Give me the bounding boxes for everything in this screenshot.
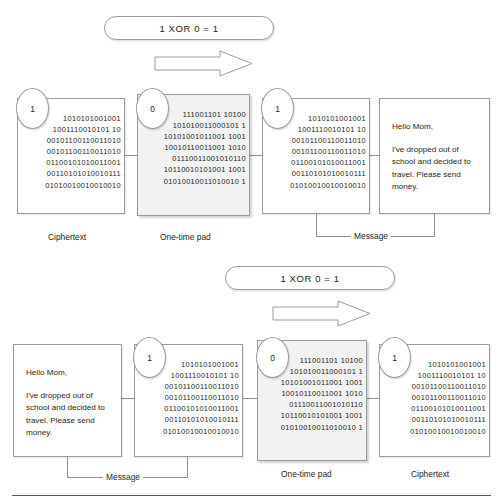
message-prose-top: Hello Mom, I've dropped out of school an… <box>392 121 480 193</box>
xor-equation-text-top: 1 XOR 0 = 1 <box>159 23 218 34</box>
flow-arrow-top <box>154 50 254 78</box>
bit-bubble-message-top: 1 <box>261 88 294 129</box>
connector-top-2 <box>249 155 263 156</box>
connector-bottom-3 <box>365 398 379 399</box>
bit-bubble-value: 1 <box>275 104 280 114</box>
message-body: I've dropped out of school and decided t… <box>392 144 480 193</box>
message-greeting: Hello Mom, <box>26 367 112 379</box>
caption-ciphertext-bottom: Ciphertext <box>411 469 449 479</box>
footer-divider <box>12 495 491 496</box>
connector-bottom-1 <box>121 398 134 399</box>
message-bracket-stem-right-top <box>434 214 435 236</box>
caption-ciphertext-top: Ciphertext <box>48 232 86 242</box>
caption-one-time-pad-bottom: One-time pad <box>281 469 332 479</box>
bit-bubble-pad-bottom: 0 <box>256 337 289 378</box>
flow-arrow-bottom <box>272 300 372 328</box>
caption-message-top: Message <box>351 231 391 241</box>
message-bracket-stem-left-top <box>316 214 317 236</box>
xor-equation-pill-bottom: 1 XOR 0 = 1 <box>225 266 395 290</box>
connector-top-1 <box>124 155 138 156</box>
message-greeting: Hello Mom, <box>392 121 480 133</box>
xor-equation-pill-top: 1 XOR 0 = 1 <box>104 16 274 40</box>
bit-bubble-value: 0 <box>270 353 275 363</box>
message-prose-bottom: Hello Mom, I've dropped out of school an… <box>26 367 112 439</box>
message-text-box-bottom: Hello Mom, I've dropped out of school an… <box>13 344 122 457</box>
message-body: I've dropped out of school and decided t… <box>26 390 112 439</box>
connector-bottom-2 <box>243 398 258 399</box>
bit-bubble-value: 1 <box>30 104 35 114</box>
bit-bubble-pad-top: 0 <box>136 88 169 129</box>
message-text-box-top: Hello Mom, I've dropped out of school an… <box>379 98 490 214</box>
message-bracket-stem-right-bottom <box>187 457 188 477</box>
caption-one-time-pad-top: One-time pad <box>160 232 211 242</box>
connector-top-3 <box>369 155 379 156</box>
diagram-canvas: 1 XOR 0 = 1 1010101001001 1001110010101 … <box>0 0 503 504</box>
bit-bubble-value: 1 <box>392 353 397 363</box>
bit-bubble-value: 1 <box>147 353 152 363</box>
bit-bubble-value: 0 <box>150 104 155 114</box>
bit-bubble-ciphertext-bottom: 1 <box>378 337 411 378</box>
bit-bubble-ciphertext-top: 1 <box>16 88 49 129</box>
bit-bubble-message-bottom: 1 <box>133 337 166 378</box>
caption-message-bottom: Message <box>103 472 143 482</box>
xor-equation-text-bottom: 1 XOR 0 = 1 <box>280 273 339 284</box>
message-bracket-stem-left-bottom <box>67 457 68 477</box>
